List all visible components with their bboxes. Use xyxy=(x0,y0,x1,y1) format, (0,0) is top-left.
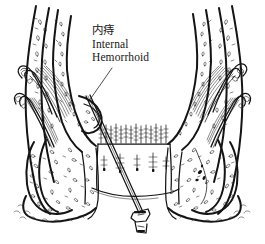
annotation-label: 内痔 Internal Hemorrhoid xyxy=(92,24,178,65)
right-perianal-tissue xyxy=(166,140,241,222)
label-chinese: 内痔 xyxy=(92,24,178,38)
anal-column-tufts xyxy=(101,153,169,173)
left-muscle-fibers-lower xyxy=(15,93,58,148)
label-english-line2: Hemorrhoid xyxy=(92,51,178,65)
leader-line xyxy=(89,68,112,101)
instrument-tip xyxy=(131,209,150,233)
anal-canal-lumen xyxy=(97,144,172,190)
label-english-line1: Internal xyxy=(92,38,178,52)
figure-root: 内痔 Internal Hemorrhoid xyxy=(0,0,265,244)
